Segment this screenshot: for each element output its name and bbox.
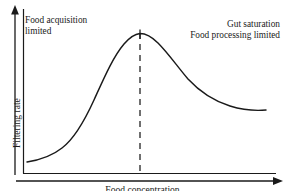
annotation-right-line-1: Gut saturation bbox=[190, 19, 280, 30]
annotation-left-line-2: limited bbox=[25, 26, 87, 37]
y-axis-label: Filtering rate bbox=[0, 48, 16, 148]
figure-container: Food acquisition limited Gut saturation … bbox=[0, 0, 285, 191]
annotation-right-line-2: Food processing limited bbox=[190, 30, 280, 41]
filtering-rate-curve bbox=[27, 34, 266, 163]
x-axis-label: Food concentration bbox=[0, 184, 285, 191]
annotation-left-line-1: Food acquisition bbox=[25, 15, 87, 26]
x-axis-label-text: Food concentration bbox=[105, 184, 179, 191]
annotation-gut-saturation: Gut saturation Food processing limited bbox=[190, 19, 280, 41]
y-axis-label-text: Filtering rate bbox=[11, 98, 22, 148]
annotation-food-acquisition-limited: Food acquisition limited bbox=[25, 15, 87, 37]
